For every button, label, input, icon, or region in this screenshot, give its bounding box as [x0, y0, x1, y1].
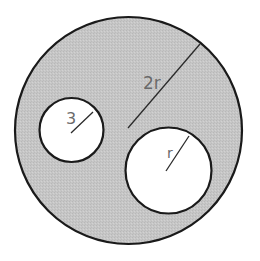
small-circle-hole — [40, 98, 104, 162]
diagram-canvas: 2r 3 r — [0, 0, 260, 261]
medium-radius-label: r — [167, 145, 173, 161]
small-radius-label: 3 — [66, 109, 76, 128]
circles-diagram: 2r 3 r — [0, 0, 260, 261]
large-radius-label: 2r — [143, 73, 161, 93]
medium-circle-hole — [126, 128, 212, 214]
